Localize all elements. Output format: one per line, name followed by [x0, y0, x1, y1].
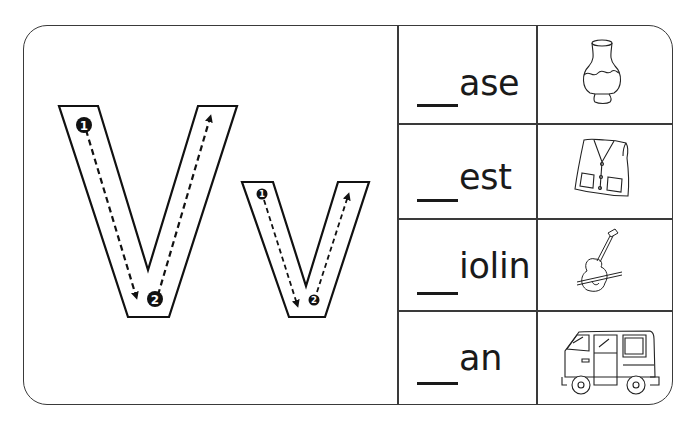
word-cell-vest: est — [398, 124, 536, 218]
word-suffix: iolin — [459, 246, 530, 286]
word-cell-violin: iolin — [398, 219, 536, 310]
stroke-number-2-small-icon: 2 — [309, 295, 320, 306]
word-suffix: an — [459, 338, 502, 378]
picture-cell-violin — [537, 219, 673, 310]
svg-text:1: 1 — [259, 189, 265, 199]
word-cell-van: an — [398, 311, 536, 405]
vase-icon — [537, 26, 673, 123]
svg-text:2: 2 — [151, 293, 159, 307]
stroke-number-1-small-icon: 1 — [257, 189, 268, 200]
fill-in-blank[interactable] — [417, 199, 458, 202]
fill-in-blank[interactable] — [417, 292, 458, 295]
violin-icon — [537, 219, 673, 310]
word-suffix: ase — [459, 63, 519, 103]
picture-cell-vest — [537, 124, 673, 218]
fill-in-blank[interactable] — [417, 104, 458, 107]
stroke-number-2-icon: 2 — [147, 291, 163, 307]
uppercase-v-outline: 1 2 — [59, 106, 237, 317]
picture-cell-vase — [537, 26, 673, 123]
word-suffix: est — [459, 157, 512, 197]
lowercase-v-outline: 1 2 — [242, 182, 369, 317]
svg-text:1: 1 — [80, 119, 88, 133]
vest-icon — [537, 124, 673, 218]
word-cell-vase: ase — [398, 26, 536, 123]
stroke-number-1-icon: 1 — [76, 117, 92, 133]
svg-text:2: 2 — [311, 295, 317, 305]
fill-in-blank[interactable] — [417, 382, 458, 385]
van-icon — [537, 311, 673, 405]
picture-cell-van — [537, 311, 673, 405]
